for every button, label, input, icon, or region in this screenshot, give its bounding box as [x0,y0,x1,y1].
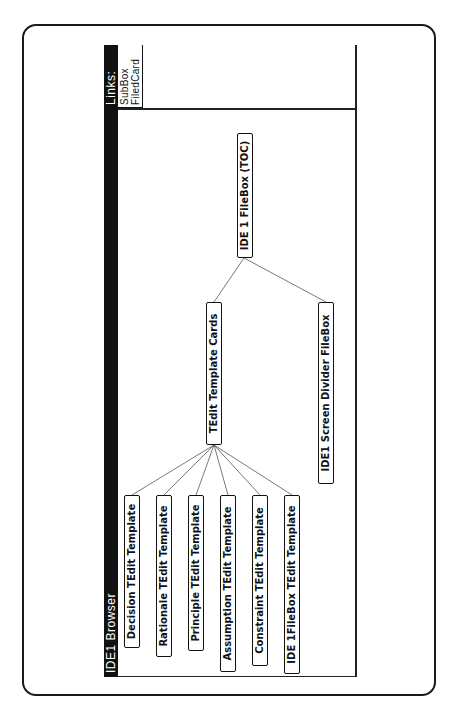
node-principle-template[interactable]: Principle TEdit Template [188,495,204,651]
node-assumption-template[interactable]: Assumption TEdit Template [220,495,236,672]
node-screen-divider-filebox[interactable]: IDE1 Screen Divider FileBox [318,302,334,484]
node-rationale-template[interactable]: Rationale TEdit Template [156,495,172,657]
node-root-filebox-toc[interactable]: IDE 1 FileBox (TOC) [237,133,253,258]
node-ide1filebox-template[interactable]: IDE 1FileBox TEdit Template [284,495,300,674]
node-constraint-template[interactable]: Constraint TEdit Template [252,495,268,666]
browser-window: IDE1 Browser Links: SubBox FiledCard IDE… [104,45,357,677]
node-decision-template[interactable]: Decision TEdit Template [124,495,140,648]
node-tedit-template-cards[interactable]: TEdit Template Cards [206,302,222,445]
